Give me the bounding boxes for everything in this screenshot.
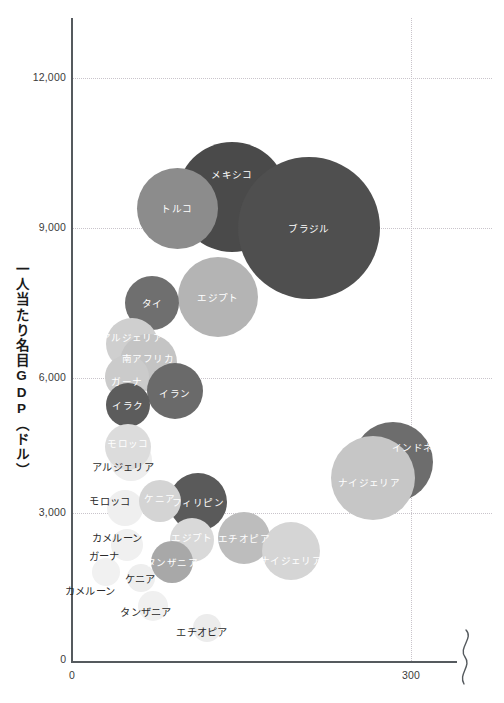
bubble-1[interactable]: [238, 157, 380, 299]
bubble-8[interactable]: [147, 363, 203, 419]
bubble-17[interactable]: [262, 522, 320, 580]
outside-label-5: カメルーン: [65, 583, 116, 598]
outside-label-6: タンザニア: [120, 604, 172, 619]
outside-label-1: モロッコ: [89, 493, 130, 508]
bubble-14[interactable]: [139, 480, 181, 522]
outside-label-3: ガーナ: [89, 548, 120, 563]
bubble-chart-figure: 一人当たり名目GDP（ドル） 12,000 9,000 6,000 3,000 …: [0, 0, 504, 703]
outside-label-4: ケニア: [125, 571, 156, 586]
outside-label-2: カメルーン: [92, 530, 143, 545]
bubble-9[interactable]: [106, 383, 150, 427]
outside-label-7: エチオピア: [176, 624, 228, 639]
bubble-18[interactable]: [151, 541, 193, 583]
bubble-12[interactable]: [331, 436, 415, 520]
plot-area: メキシコブラジルトルコエジプトタイアルジェリア南アフリカガーナイランイラクモロッ…: [0, 0, 504, 703]
bubble-3[interactable]: [178, 257, 258, 337]
bubble-2[interactable]: [137, 168, 218, 249]
outside-label-0: アルジェリア: [92, 459, 154, 474]
